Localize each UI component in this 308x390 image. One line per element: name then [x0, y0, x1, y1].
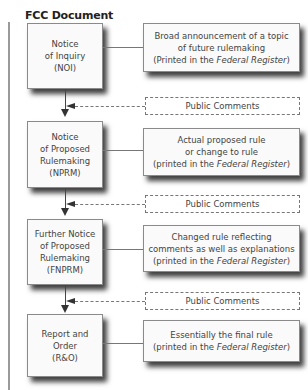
desc-line: Broad announcement of a topic: [153, 30, 290, 42]
public-comments-box: Public Comments: [145, 195, 300, 213]
doc-box-fnprm: Further Notice of Proposed Rulemaking (F…: [27, 219, 103, 285]
public-comments-box: Public Comments: [145, 97, 300, 115]
desc-line: (printed in the Federal Register): [153, 341, 290, 353]
desc-line: Changed rule reflecting: [148, 231, 294, 243]
doc-box-ro: Report and Order (R&O): [27, 314, 103, 377]
left-arrow-icon: [66, 298, 75, 304]
down-arrow-icon: [61, 109, 69, 117]
doc-label-line: Notice: [40, 131, 90, 143]
down-arrow-icon: [61, 208, 69, 216]
doc-label-line: (NOI): [45, 62, 85, 74]
desc-box-noi: Broad announcement of a topic of future …: [143, 23, 300, 72]
left-margin-rule: [8, 22, 10, 390]
doc-label-line: Rulemaking: [40, 155, 90, 167]
connector-line: [103, 343, 143, 344]
desc-box-fnprm: Changed rule reflecting comments as well…: [143, 225, 300, 272]
desc-line: (printed in the Federal Register): [148, 255, 294, 267]
connector-line: [103, 249, 143, 250]
doc-box-noi: Notice of Inquiry (NOI): [27, 23, 103, 89]
comment-dash-line: [75, 204, 145, 205]
desc-line: of future rulemaking: [153, 42, 290, 54]
doc-label-line: (R&O): [42, 352, 89, 364]
doc-label-line: Report and: [42, 328, 89, 340]
diagram-title: FCC Document: [25, 9, 113, 22]
comment-dash-line: [75, 301, 145, 302]
doc-label-line: Notice: [45, 38, 85, 50]
left-arrow-icon: [66, 103, 75, 109]
desc-box-nprm: Actual proposed rule or change to rule (…: [143, 128, 300, 176]
doc-label-line: (NPRM): [40, 167, 90, 179]
connector-line: [103, 150, 143, 151]
down-arrow-icon: [61, 305, 69, 313]
desc-line: (Printed in the Federal Register): [153, 54, 290, 66]
desc-line: Essentially the final rule: [153, 329, 290, 341]
desc-line: (printed in the Federal Register): [153, 158, 290, 170]
doc-box-nprm: Notice of Proposed Rulemaking (NPRM): [27, 121, 103, 188]
desc-line: Actual proposed rule: [153, 134, 290, 146]
desc-box-ro: Essentially the final rule (printed in t…: [143, 320, 300, 362]
doc-label-line: of Proposed: [35, 240, 96, 252]
desc-line: comments as well as explanations: [148, 243, 294, 255]
comment-dash-line: [75, 106, 145, 107]
doc-label-line: of Inquiry: [45, 50, 85, 62]
doc-label-line: (FNPRM): [35, 264, 96, 276]
doc-label-line: of Proposed: [40, 143, 90, 155]
doc-label-line: Rulemaking: [35, 252, 96, 264]
desc-line: or change to rule: [153, 146, 290, 158]
left-arrow-icon: [66, 201, 75, 207]
doc-label-line: Order: [42, 340, 89, 352]
connector-line: [103, 47, 143, 48]
doc-label-line: Further Notice: [35, 228, 96, 240]
public-comments-box: Public Comments: [145, 292, 300, 310]
